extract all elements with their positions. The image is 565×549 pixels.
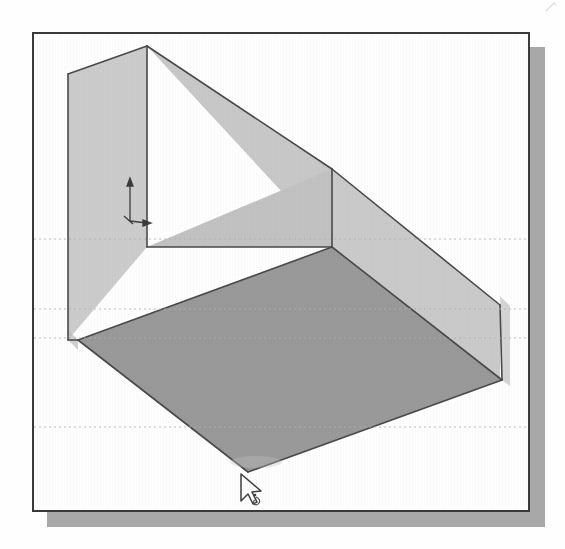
model-faces xyxy=(68,46,502,472)
drawing-window-frame[interactable] xyxy=(32,32,530,512)
edge-top-ridge-slope xyxy=(147,46,332,169)
page-corner-artifact-icon xyxy=(545,2,557,12)
face-left-vertical-wall xyxy=(68,46,147,340)
cursor-arrow-icon xyxy=(241,474,261,504)
cursor-hotspot-dot xyxy=(254,494,257,497)
mouse-pointer[interactable] xyxy=(241,474,261,505)
axis-horizontal-arrowhead xyxy=(143,220,151,226)
model-viewport-canvas[interactable] xyxy=(34,34,528,510)
screenshot-page: 3d-cad-wedge-solid-isometric xyxy=(0,0,565,549)
scan-smudge xyxy=(230,456,282,468)
